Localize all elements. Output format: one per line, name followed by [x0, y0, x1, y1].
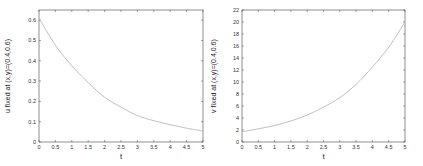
x-tick-label: 1.5	[84, 144, 92, 150]
y-tick-label: 4	[236, 115, 239, 121]
x-tick-label: 4	[169, 144, 172, 150]
y-tick-label: 0	[33, 139, 36, 145]
y-tick-label: 20	[233, 19, 239, 25]
x-tick-label: 3	[136, 144, 139, 150]
x-tick-label: 2.5	[117, 144, 125, 150]
x-tick-label: 3.5	[150, 144, 158, 150]
y-tick-label: 6	[236, 103, 239, 109]
x-tick-label: 3	[338, 144, 341, 150]
x-tick-label: 0	[37, 144, 40, 150]
x-tick-label: 4.5	[183, 144, 191, 150]
x-axis-label: t	[322, 152, 325, 161]
x-tick-label: 2	[103, 144, 106, 150]
y-tick-label: 8	[236, 91, 239, 97]
y-tick-label: 0.4	[28, 58, 36, 64]
x-tick-label: 0.5	[254, 144, 262, 150]
y-tick-label: 0.5	[28, 37, 36, 43]
y-tick-label: 22	[233, 7, 239, 13]
y-tick-label: 16	[233, 43, 239, 49]
x-tick-label: 4	[371, 144, 374, 150]
v-plot: 00.511.522.533.544.550246810121416182022…	[210, 7, 407, 161]
y-axis-label: u fixed at (x,y)=(0.4,0.6)	[4, 39, 12, 113]
y-tick-label: 18	[233, 31, 239, 37]
x-tick-label: 3.5	[352, 144, 360, 150]
x-tick-label: 5	[201, 144, 204, 150]
x-tick-label: 4.5	[385, 144, 393, 150]
x-tick-label: 1	[70, 144, 73, 150]
y-tick-label: 0.3	[28, 78, 36, 84]
u-plot: 00.511.522.533.544.5500.10.20.30.40.50.6…	[4, 10, 205, 161]
axes-box	[242, 10, 405, 142]
x-axis-label: t	[120, 152, 123, 161]
y-tick-label: 12	[233, 67, 239, 73]
y-axis-label: v fixed at (x,y)=(0.4,0.6)	[210, 39, 218, 113]
x-tick-label: 2.5	[320, 144, 328, 150]
x-tick-label: 5	[403, 144, 406, 150]
y-tick-label: 0.1	[28, 119, 36, 125]
axes-box	[39, 10, 203, 142]
y-tick-label: 2	[236, 127, 239, 133]
y-tick-label: 14	[233, 55, 239, 61]
y-tick-label: 10	[233, 79, 239, 85]
x-tick-label: 0	[240, 144, 243, 150]
x-tick-label: 0.5	[52, 144, 60, 150]
x-tick-label: 1.5	[287, 144, 295, 150]
chart-canvas: 00.511.522.533.544.5500.10.20.30.40.50.6…	[0, 0, 423, 166]
y-tick-label: 0	[236, 139, 239, 145]
y-tick-label: 0.2	[28, 98, 36, 104]
x-tick-label: 2	[306, 144, 309, 150]
x-tick-label: 1	[273, 144, 276, 150]
y-tick-label: 0.6	[28, 17, 36, 23]
